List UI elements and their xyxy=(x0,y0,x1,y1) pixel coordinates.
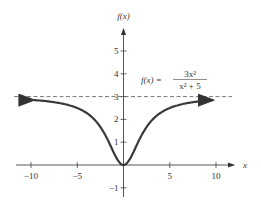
y-tick-label: −1 xyxy=(109,183,119,193)
x-tick-label: −10 xyxy=(24,171,39,181)
x-tick-label: 10 xyxy=(212,171,222,181)
formula-denominator: x² + 5 xyxy=(179,81,201,91)
y-axis-label: f(x) xyxy=(117,11,130,21)
x-axis-label: x xyxy=(242,160,247,170)
x-tick-label: 5 xyxy=(168,171,173,181)
x-tick-label: −5 xyxy=(72,171,82,181)
y-tick-label: 2 xyxy=(114,114,119,124)
formula-lhs: f(x) = xyxy=(141,75,162,85)
y-tick-label: 5 xyxy=(114,46,119,56)
chart: xf(x)−10−5510−112345f(x) =3x²x² + 5 xyxy=(0,0,261,207)
y-tick-label: 1 xyxy=(114,137,119,147)
y-tick-label: 4 xyxy=(114,69,119,79)
function-plot: xf(x)−10−5510−112345f(x) =3x²x² + 5 xyxy=(0,0,261,207)
formula-numerator: 3x² xyxy=(184,69,196,79)
